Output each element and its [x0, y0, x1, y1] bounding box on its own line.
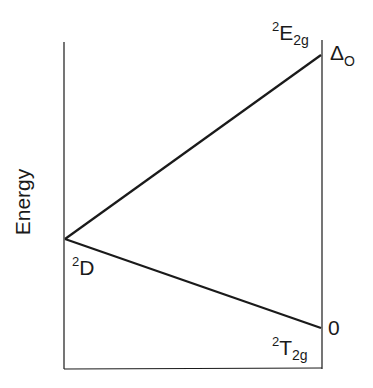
- delta-o-label: ΔO: [330, 41, 355, 69]
- upper-splitting-line: [65, 55, 321, 239]
- lower-splitting-line: [65, 239, 321, 328]
- bottom-axis: [64, 368, 322, 369]
- energy-diagram: Energy 2D 2E2g ΔO 2T2g 0: [0, 0, 373, 388]
- lower-term-label: 2T2g: [272, 334, 308, 363]
- free-ion-term-label: 2D: [72, 254, 94, 279]
- zero-energy-label: 0: [328, 316, 340, 339]
- y-axis-label: Energy: [11, 168, 34, 235]
- upper-term-label: 2E2g: [272, 19, 309, 48]
